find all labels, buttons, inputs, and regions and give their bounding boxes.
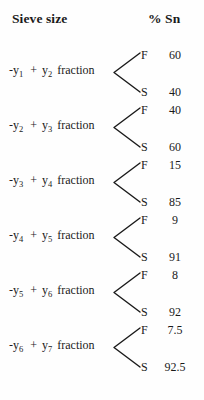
- sieve-row: -y3+y4fractionF15S85: [0, 155, 204, 210]
- term-operator: +: [23, 339, 42, 351]
- branch-fork-icon: [113, 161, 141, 205]
- term-operator: +: [23, 284, 42, 296]
- branch-label-fine: F: [141, 49, 148, 61]
- term-upper-subscript: 4: [48, 179, 52, 189]
- branch-value-sand: 92.5: [156, 361, 194, 373]
- branch-value-fine: 60: [156, 49, 194, 61]
- branch-value-fine: 40: [156, 104, 194, 116]
- term-lower-subscript: 4: [19, 234, 23, 244]
- term-lower-subscript: 2: [19, 124, 23, 134]
- branch-fork-icon: [113, 216, 141, 260]
- term-lower-subscript: 6: [19, 344, 23, 354]
- term-operator: +: [23, 119, 42, 131]
- sieve-size-label: -y2+y3fraction: [9, 119, 95, 131]
- diagram-header: Sieve size % Sn: [0, 11, 204, 29]
- branch-label-sand: S: [141, 306, 148, 318]
- header-sieve-size: Sieve size: [12, 11, 67, 27]
- sieve-size-label: -y3+y4fraction: [9, 174, 95, 186]
- branch-fork-icon: [113, 51, 141, 95]
- term-fraction-word: fraction: [52, 119, 94, 131]
- branch-value-fine: 9: [156, 214, 194, 226]
- term-lower-bound: -y: [9, 173, 19, 187]
- branch-value-sand: 92: [156, 306, 194, 318]
- branch-value-sand: 60: [156, 141, 194, 153]
- term-fraction-word: fraction: [52, 229, 94, 241]
- term-fraction-word: fraction: [52, 339, 94, 351]
- branch-value-fine: 7.5: [156, 324, 194, 336]
- branch-label-sand: S: [141, 196, 148, 208]
- sieve-size-label: -y6+y7fraction: [9, 339, 95, 351]
- term-lower-bound: -y: [9, 283, 19, 297]
- branch-value-sand: 40: [156, 86, 194, 98]
- term-lower-bound: -y: [9, 338, 19, 352]
- sieve-row: -y4+y5fractionF9S91: [0, 210, 204, 265]
- header-percent-sn: % Sn: [148, 11, 180, 27]
- sieve-split-diagram: Sieve size % Sn -y1+y2fractionF60S40-y2+…: [0, 0, 204, 400]
- branch-value-fine: 8: [156, 269, 194, 281]
- branch-label-fine: F: [141, 214, 148, 226]
- term-operator: +: [23, 229, 42, 241]
- sieve-size-label: -y4+y5fraction: [9, 229, 95, 241]
- branch-label-fine: F: [141, 269, 148, 281]
- term-fraction-word: fraction: [52, 284, 94, 296]
- branch-fork-icon: [113, 326, 141, 370]
- term-fraction-word: fraction: [52, 64, 94, 76]
- branch-fork-icon: [113, 271, 141, 315]
- term-lower-bound: -y: [9, 63, 19, 77]
- term-lower-bound: -y: [9, 228, 19, 242]
- branch-fork-icon: [113, 106, 141, 150]
- branch-label-fine: F: [141, 324, 148, 336]
- term-fraction-word: fraction: [52, 174, 94, 186]
- sieve-row: -y2+y3fractionF40S60: [0, 100, 204, 155]
- term-upper-subscript: 2: [48, 69, 52, 79]
- branch-label-fine: F: [141, 159, 148, 171]
- branch-value-sand: 85: [156, 196, 194, 208]
- sieve-row: -y6+y7fractionF7.5S92.5: [0, 320, 204, 375]
- sieve-row: -y5+y6fractionF8S92: [0, 265, 204, 320]
- term-operator: +: [23, 64, 42, 76]
- branch-label-sand: S: [141, 361, 148, 373]
- sieve-row: -y1+y2fractionF60S40: [0, 45, 204, 100]
- term-upper-subscript: 6: [48, 289, 52, 299]
- term-lower-subscript: 5: [19, 289, 23, 299]
- branch-label-sand: S: [141, 141, 148, 153]
- term-lower-subscript: 1: [19, 69, 23, 79]
- branch-label-sand: S: [141, 86, 148, 98]
- term-upper-subscript: 7: [48, 344, 52, 354]
- branch-label-fine: F: [141, 104, 148, 116]
- term-upper-subscript: 5: [48, 234, 52, 244]
- term-upper-subscript: 3: [48, 124, 52, 134]
- branch-value-fine: 15: [156, 159, 194, 171]
- term-lower-bound: -y: [9, 118, 19, 132]
- term-operator: +: [23, 174, 42, 186]
- term-lower-subscript: 3: [19, 179, 23, 189]
- sieve-size-label: -y1+y2fraction: [9, 64, 95, 76]
- branch-value-sand: 91: [156, 251, 194, 263]
- branch-label-sand: S: [141, 251, 148, 263]
- sieve-size-label: -y5+y6fraction: [9, 284, 95, 296]
